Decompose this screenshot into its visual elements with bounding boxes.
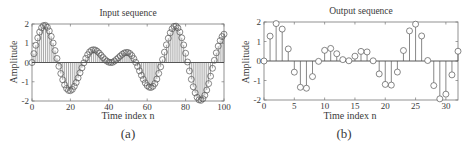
stem-marker <box>376 71 382 77</box>
stem-marker <box>431 83 437 89</box>
stem-marker <box>413 21 419 27</box>
stem-marker <box>394 69 400 75</box>
stem-marker <box>443 91 449 97</box>
y-tick-label: -1 <box>22 77 30 87</box>
y-tick-label: -2 <box>22 96 30 106</box>
stem-marker <box>273 21 279 27</box>
y-tick-label: -1 <box>254 76 262 86</box>
y-tick-label: 1 <box>257 37 262 47</box>
stem-marker <box>437 96 443 102</box>
stem-marker <box>303 85 309 91</box>
stem-marker <box>261 58 267 64</box>
stem-marker <box>48 33 54 39</box>
stem-marker <box>364 49 370 55</box>
x-tick-label: 0 <box>30 102 35 112</box>
stem-marker <box>400 48 406 54</box>
x-tick-label: 40 <box>104 102 114 112</box>
stem-marker <box>179 35 185 41</box>
x-tick-label: 10 <box>320 101 330 111</box>
stem-marker <box>425 58 431 64</box>
stem-marker <box>52 48 58 54</box>
stem-marker <box>285 46 291 52</box>
stem-marker <box>291 69 297 75</box>
stem-marker <box>455 48 461 54</box>
stem-marker <box>297 84 303 90</box>
y-tick-label: -2 <box>254 95 262 105</box>
stem-marker <box>328 45 334 51</box>
plot-area: 051015202530-2-1012 <box>254 17 462 111</box>
stem-marker <box>340 57 346 63</box>
x-tick-label: 25 <box>411 101 421 111</box>
stem-marker <box>316 58 322 64</box>
stem-marker <box>54 55 60 61</box>
stem-marker <box>154 76 160 82</box>
x-tick-label: 15 <box>350 101 360 111</box>
y-tick-label: 2 <box>257 17 262 27</box>
stem-marker <box>204 87 210 93</box>
y-axis-label: Amplitude <box>8 40 19 83</box>
stem-marker <box>206 81 212 87</box>
panel-caption: (a) <box>121 126 135 141</box>
stem-marker <box>346 58 352 64</box>
y-tick-label: 2 <box>25 19 30 29</box>
stem-marker <box>388 82 394 88</box>
output-sequence-panel: Output sequence Time index n Amplitude (… <box>240 6 461 141</box>
x-tick-label: 20 <box>66 102 76 112</box>
plot-area: 020406080100-2-1012 <box>22 19 232 112</box>
stem-marker <box>183 50 189 56</box>
figure: Input sequence Time index n Amplitude (a… <box>0 0 471 150</box>
stem-marker <box>322 47 328 53</box>
x-tick-label: 0 <box>262 101 267 111</box>
stem-marker <box>382 81 388 87</box>
stem-marker <box>358 48 364 54</box>
input-sequence-panel: Input sequence Time index n Amplitude (a… <box>8 8 231 141</box>
stem-marker <box>419 33 425 39</box>
stem-marker <box>221 31 227 37</box>
stem-marker <box>50 40 56 46</box>
y-tick-label: 1 <box>25 38 30 48</box>
stem-marker <box>310 74 316 80</box>
x-tick-label: 20 <box>381 101 391 111</box>
stem-marker <box>177 29 183 35</box>
x-tick-label: 100 <box>217 102 231 112</box>
stem-marker <box>208 73 214 79</box>
x-tick-label: 30 <box>441 101 451 111</box>
stem-marker <box>267 33 273 39</box>
chart-title: Input sequence <box>99 8 156 18</box>
stem-marker <box>181 42 187 48</box>
x-tick-label: 5 <box>292 101 297 111</box>
x-axis-label: Time index n <box>324 110 377 121</box>
stem-marker <box>279 26 285 32</box>
stem-marker <box>370 58 376 64</box>
stem-marker <box>352 53 358 59</box>
stem-marker <box>407 28 413 34</box>
y-axis-label: Amplitude <box>240 40 251 83</box>
stem-marker <box>334 51 340 57</box>
stem-marker <box>158 64 164 70</box>
stem-marker <box>209 65 215 71</box>
x-tick-label: 60 <box>143 102 153 112</box>
stem-marker <box>449 72 455 78</box>
panel-caption: (b) <box>336 126 351 141</box>
x-tick-label: 80 <box>181 102 191 112</box>
stem-marker <box>156 70 162 76</box>
chart-title: Output sequence <box>329 6 393 16</box>
